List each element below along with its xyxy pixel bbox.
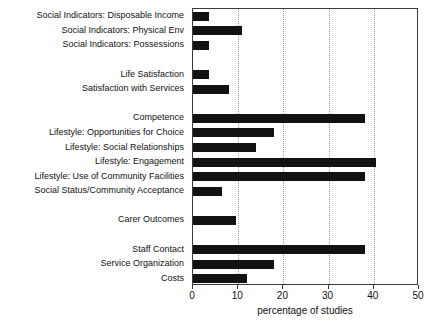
bar <box>193 12 209 21</box>
x-axis-tick <box>237 285 238 289</box>
category-label: Social Status/Community Acceptance <box>34 185 184 195</box>
bar <box>193 143 256 152</box>
bar <box>193 26 242 35</box>
bar-row <box>193 70 419 79</box>
category-label: Satisfaction with Services <box>82 83 184 93</box>
bar <box>193 260 274 269</box>
category-label: Lifestyle: Use of Community Facilities <box>34 171 184 181</box>
bar-row <box>193 216 419 225</box>
x-axis-tick <box>418 285 419 289</box>
bar-row <box>193 245 419 254</box>
bar <box>193 245 365 254</box>
category-label: Lifestyle: Engagement <box>95 156 184 166</box>
bar-chart: Social Indicators: Disposable IncomeSoci… <box>0 0 430 326</box>
bar <box>193 158 376 167</box>
bar-row <box>193 187 419 196</box>
x-axis-tick-label: 40 <box>367 290 378 302</box>
category-axis-labels: Social Indicators: Disposable IncomeSoci… <box>0 8 188 285</box>
category-label: Social Indicators: Physical Env <box>61 25 184 35</box>
category-label: Staff Contact <box>132 244 184 254</box>
x-axis-tick-label: 50 <box>412 290 423 302</box>
category-label: Carer Outcomes <box>118 214 184 224</box>
x-axis-tick <box>192 285 193 289</box>
x-axis-tick <box>282 285 283 289</box>
bar-rows <box>193 9 417 284</box>
bar <box>193 172 365 181</box>
x-axis-tick-label: 0 <box>189 290 195 302</box>
bar <box>193 216 236 225</box>
bar <box>193 114 365 123</box>
bar-row <box>193 41 419 50</box>
plot-area <box>192 8 418 285</box>
category-label: Competence <box>133 112 184 122</box>
x-axis-tick-label: 20 <box>277 290 288 302</box>
bar <box>193 187 222 196</box>
category-label: Life Satisfaction <box>120 69 184 79</box>
bar <box>193 70 209 79</box>
category-label: Social Indicators: Disposable Income <box>36 10 184 20</box>
bar-row <box>193 143 419 152</box>
bar-row <box>193 26 419 35</box>
x-axis-tick <box>373 285 374 289</box>
x-axis-tick-labels: 01020304050 <box>192 290 418 304</box>
bar-row <box>193 12 419 21</box>
category-label: Lifestyle: Opportunities for Choice <box>49 127 184 137</box>
x-axis-tick <box>328 285 329 289</box>
bar-row <box>193 128 419 137</box>
bar-row <box>193 85 419 94</box>
bar-row <box>193 158 419 167</box>
category-label: Costs <box>161 273 184 283</box>
category-label: Social Indicators: Possessions <box>62 39 184 49</box>
x-axis-tick-label: 10 <box>232 290 243 302</box>
bar-row <box>193 260 419 269</box>
x-axis-title: percentage of studies <box>192 304 418 317</box>
bar <box>193 274 247 283</box>
category-label: Lifestyle: Social Relationships <box>65 142 184 152</box>
category-label: Service Organization <box>100 258 184 268</box>
x-axis-tick-label: 30 <box>322 290 333 302</box>
bar-row <box>193 114 419 123</box>
bar-row <box>193 172 419 181</box>
bar <box>193 128 274 137</box>
bar-row <box>193 274 419 283</box>
bar <box>193 85 229 94</box>
bar <box>193 41 209 50</box>
